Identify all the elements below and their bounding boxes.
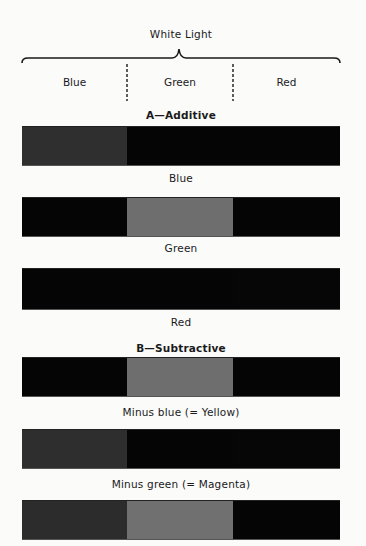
segment-blue xyxy=(22,127,127,165)
segment-blue xyxy=(22,198,127,236)
segment-green xyxy=(127,430,233,468)
segment-green xyxy=(127,198,233,236)
segment-green xyxy=(127,358,233,396)
segment-green xyxy=(127,127,233,165)
segment-blue xyxy=(22,501,127,539)
subtractive-bar-minus-red xyxy=(22,500,340,540)
segment-red xyxy=(233,198,340,236)
additive-heading: A—Additive xyxy=(0,108,362,122)
segment-green xyxy=(127,501,233,539)
caption-additive-blue: Blue xyxy=(0,171,362,185)
band-label-blue: Blue xyxy=(22,75,127,89)
additive-bar-blue xyxy=(22,126,340,166)
caption-minus-green: Minus green (= Magenta) xyxy=(0,477,362,491)
brace-diagram xyxy=(0,0,366,110)
segment-red xyxy=(233,269,340,309)
segment-green xyxy=(127,269,233,309)
segment-blue xyxy=(22,358,127,396)
band-label-red: Red xyxy=(233,75,340,89)
segment-blue xyxy=(22,269,127,309)
segment-red xyxy=(233,430,340,468)
caption-additive-green: Green xyxy=(0,241,362,255)
segment-blue xyxy=(22,430,127,468)
segment-red xyxy=(233,127,340,165)
subtractive-heading: B—Subtractive xyxy=(0,341,362,355)
segment-red xyxy=(233,358,340,396)
additive-bar-red xyxy=(22,268,340,310)
caption-additive-red: Red xyxy=(0,315,362,329)
subtractive-bar-minus-green xyxy=(22,429,340,469)
subtractive-bar-minus-blue xyxy=(22,357,340,397)
curly-brace xyxy=(22,49,340,63)
segment-red xyxy=(233,501,340,539)
additive-bar-green xyxy=(22,197,340,237)
caption-minus-blue: Minus blue (= Yellow) xyxy=(0,405,362,419)
band-label-green: Green xyxy=(127,75,233,89)
